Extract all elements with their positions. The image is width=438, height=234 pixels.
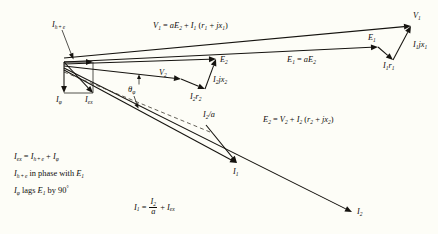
vector-I2r2	[181, 79, 205, 89]
label-E2: E2	[220, 56, 228, 65]
phasor-diagram-figure: V1 E1 I1jx1 I1r1 E2 V2 I2jx2 I2r2 I2/a I…	[0, 0, 438, 234]
note-Iphi-lag: Iφ lags E1 by 90°	[14, 187, 84, 196]
label-I1jx1: I1jx1	[413, 41, 427, 50]
equation-E1: E1 = aE2	[287, 56, 316, 65]
vector-Iex	[64, 62, 93, 93]
label-I2jx2: I2jx2	[213, 76, 227, 85]
label-I2-over-a: I2/a	[203, 111, 215, 120]
vector-V1	[64, 24, 411, 58]
label-I2r2: I2r2	[190, 93, 201, 102]
vector-I2	[64, 68, 352, 212]
label-Iphi: Iφ	[56, 96, 62, 105]
vector-I2-over-a	[206, 125, 237, 163]
label-E1: E1	[368, 34, 376, 43]
equation-I1: I1 = I2 a + Iex	[134, 198, 175, 218]
label-V2: V2	[159, 69, 167, 78]
label-I1: I1	[233, 168, 239, 177]
label-I1r1: I1r1	[383, 62, 394, 71]
vector-I1jx1	[393, 26, 411, 60]
label-Iex: Iex	[85, 96, 93, 105]
notes-block: Iex = Ih + e + Iφ Ih + e in phase with E…	[14, 153, 84, 203]
note-Ihe-phase: Ih + e in phase with E1	[14, 170, 84, 179]
fraction-I2-over-a: I2 a	[149, 198, 157, 218]
label-V1: V1	[413, 12, 421, 21]
label-I2: I2	[357, 208, 363, 217]
note-Iex-definition: Iex = Ih + e + Iφ	[14, 153, 84, 162]
vector-I1r1	[378, 47, 393, 60]
label-Ih+e: Ih + e	[52, 21, 65, 30]
equation-E2: E2 = V2 + I2 (r2 + jx2)	[263, 116, 334, 125]
label-theta-phi: θφ	[128, 85, 135, 94]
equation-V1: V1 = aE2 + I1 (r1 + jx1)	[153, 22, 228, 31]
